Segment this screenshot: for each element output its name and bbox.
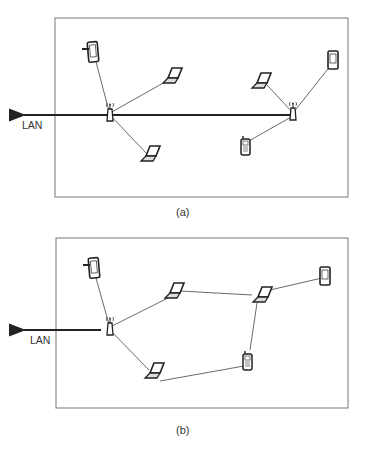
cellphone-icon	[243, 351, 252, 370]
pda-icon	[83, 258, 100, 279]
diagram-b-frame	[56, 238, 348, 408]
laptop-icon	[145, 363, 164, 378]
caption-a: (a)	[176, 206, 189, 218]
cellphone-icon	[241, 136, 250, 155]
diagram-a-links	[95, 58, 331, 155]
diagram-b	[24, 238, 348, 408]
network-diagrams	[0, 0, 365, 453]
caption-b: (b)	[176, 424, 189, 436]
diagram-b-links	[96, 278, 322, 381]
laptop-icon	[253, 287, 272, 302]
laptop-icon	[163, 68, 182, 83]
diagram-a-frame	[55, 18, 348, 197]
lan-label-b: LAN	[30, 334, 50, 346]
access-point-icon	[290, 102, 297, 120]
pda-icon	[328, 51, 338, 69]
laptop-icon	[141, 146, 160, 161]
pda-icon	[320, 267, 330, 285]
laptop-icon	[165, 283, 184, 298]
pda-icon	[82, 42, 99, 63]
lan-label-a: LAN	[22, 119, 42, 131]
diagram-a	[24, 18, 348, 197]
